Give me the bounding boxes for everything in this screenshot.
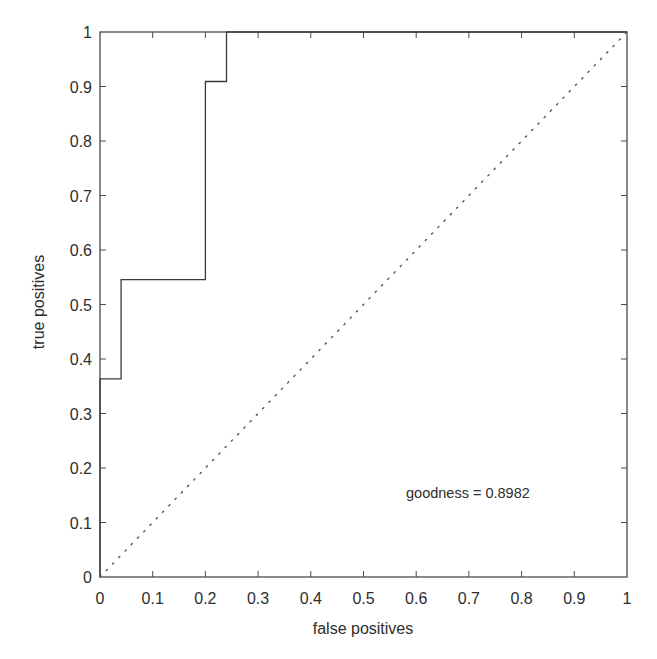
x-axis-label: false positives: [313, 620, 414, 637]
y-tick-label: 0.6: [70, 242, 92, 259]
x-tick-label: 0.7: [458, 590, 480, 607]
roc-chart-svg: 00.10.20.30.40.50.60.70.80.91 00.10.20.3…: [0, 0, 657, 659]
chance-diagonal-line: [100, 32, 627, 577]
goodness-annotation: goodness = 0.8982: [406, 485, 530, 501]
series-layer: [100, 32, 627, 577]
y-tick-label: 0.5: [70, 297, 92, 314]
x-tick-label: 0.9: [563, 590, 585, 607]
y-tick-label: 0.7: [70, 188, 92, 205]
y-tick-label: 0.3: [70, 406, 92, 423]
y-axis-ticks: 00.10.20.30.40.50.60.70.80.91: [70, 24, 627, 586]
y-tick-label: 0.9: [70, 79, 92, 96]
roc-chart: 00.10.20.30.40.50.60.70.80.91 00.10.20.3…: [0, 0, 657, 659]
x-axis-ticks: 00.10.20.30.40.50.60.70.80.91: [96, 32, 632, 607]
x-tick-label: 0.5: [352, 590, 374, 607]
x-tick-label: 0.2: [194, 590, 216, 607]
y-axis-label: true positives: [30, 255, 47, 349]
x-tick-label: 1: [623, 590, 632, 607]
y-tick-label: 0.8: [70, 133, 92, 150]
x-tick-label: 0: [96, 590, 105, 607]
x-tick-label: 0.4: [300, 590, 322, 607]
x-tick-label: 0.1: [142, 590, 164, 607]
y-tick-label: 1: [83, 24, 92, 41]
y-tick-label: 0.4: [70, 351, 92, 368]
y-tick-label: 0.2: [70, 460, 92, 477]
y-tick-label: 0: [83, 569, 92, 586]
x-tick-label: 0.8: [510, 590, 532, 607]
x-tick-label: 0.6: [405, 590, 427, 607]
y-tick-label: 0.1: [70, 515, 92, 532]
x-tick-label: 0.3: [247, 590, 269, 607]
